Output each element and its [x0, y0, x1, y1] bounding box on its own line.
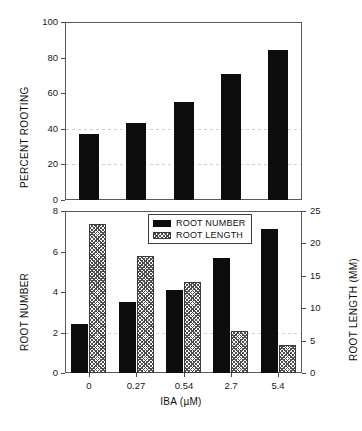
legend-item: ROOT LENGTH: [153, 230, 246, 240]
tick-mark-root-number: [61, 211, 65, 212]
tick-label-root-length: 0: [310, 368, 336, 378]
tick-mark-percent-rooting: [61, 129, 65, 130]
bar-percent-rooting: [221, 74, 241, 200]
tick-mark-root-length: [302, 341, 306, 342]
tick-mark-root-number: [61, 333, 65, 334]
bar-root-number: [71, 324, 88, 373]
y-axis-title-root-length: ROOT LENGTH (MM): [348, 258, 359, 361]
tick-mark-percent-rooting: [61, 58, 65, 59]
tick-mark-percent-rooting: [61, 93, 65, 94]
chart-legend: ROOT NUMBERROOT LENGTH: [148, 214, 252, 244]
bar-percent-rooting: [79, 134, 99, 200]
tick-mark-root-length: [302, 276, 306, 277]
tick-label-iba: 5.4: [256, 381, 300, 391]
tick-mark-root-number: [61, 292, 65, 293]
legend-label-root-number: ROOT NUMBER: [176, 219, 246, 228]
tick-label-root-number: 6: [25, 247, 58, 257]
legend-label-root-length: ROOT LENGTH: [176, 231, 243, 240]
tick-label-iba: 2.7: [209, 381, 253, 391]
tick-mark-root-number: [61, 373, 65, 374]
tick-mark-percent-rooting: [61, 22, 65, 23]
bar-root-length: [231, 331, 248, 373]
bar-percent-rooting: [126, 123, 146, 200]
bar-root-number: [261, 229, 278, 373]
tick-mark-root-length: [302, 308, 306, 309]
tick-mark-iba: [278, 373, 279, 377]
legend-item: ROOT NUMBER: [153, 218, 246, 228]
tick-label-iba: 0.54: [162, 381, 206, 391]
figure-root: 100806040200PERCENT ROOTING8642025201510…: [0, 0, 362, 431]
tick-mark-root-length: [302, 373, 306, 374]
tick-label-percent-rooting: 80: [25, 53, 58, 63]
tick-label-root-length: 15: [310, 271, 336, 281]
y-axis-title-percent-rooting: PERCENT ROOTING: [19, 86, 30, 188]
bar-root-length: [89, 224, 106, 373]
bar-root-number: [119, 302, 136, 373]
tick-mark-iba: [89, 373, 90, 377]
tick-mark-root-length: [302, 211, 306, 212]
legend-swatch-root-number: [153, 220, 171, 227]
legend-swatch-root-length: [153, 232, 171, 239]
tick-label-root-length: 20: [310, 238, 336, 248]
tick-label-iba: 0.27: [114, 381, 158, 391]
x-axis-title-iba: IBA (µM): [0, 396, 362, 407]
bar-percent-rooting: [268, 50, 288, 200]
bar-percent-rooting: [174, 102, 194, 200]
tick-mark-percent-rooting: [61, 164, 65, 165]
y-axis-title-root-number: ROOT NUMBER: [19, 273, 30, 351]
tick-mark-iba: [136, 373, 137, 377]
tick-label-iba: 0: [67, 381, 111, 391]
tick-label-percent-rooting: 100: [25, 17, 58, 27]
bar-root-number: [166, 290, 183, 373]
tick-label-root-length: 25: [310, 206, 336, 216]
bar-root-number: [213, 258, 230, 373]
tick-mark-percent-rooting: [61, 200, 65, 201]
tick-mark-iba: [231, 373, 232, 377]
tick-label-root-number: 0: [25, 368, 58, 378]
bar-root-length: [279, 345, 296, 373]
tick-label-root-length: 5: [310, 336, 336, 346]
tick-label-root-length: 10: [310, 303, 336, 313]
tick-label-percent-rooting: 0: [25, 195, 58, 205]
tick-mark-root-length: [302, 243, 306, 244]
tick-mark-iba: [184, 373, 185, 377]
bar-root-length: [184, 282, 201, 373]
tick-label-root-number: 8: [25, 206, 58, 216]
tick-mark-root-number: [61, 252, 65, 253]
bar-root-length: [137, 256, 154, 373]
